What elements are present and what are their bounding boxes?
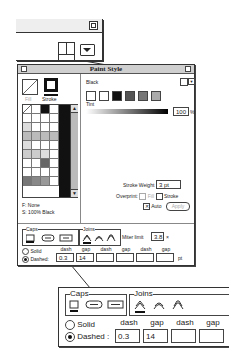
stroke-swatch[interactable] — [44, 78, 58, 92]
solid-label: Solid — [77, 320, 95, 329]
dash-field-1[interactable]: 0.3 — [56, 253, 74, 262]
menu-arrow-icon[interactable]: ▼ — [188, 78, 195, 85]
bevel-join-icon[interactable] — [107, 235, 115, 241]
color-name: Black — [86, 79, 98, 85]
tint-field[interactable]: 100 — [173, 107, 189, 116]
gradient-mode-icon[interactable] — [151, 91, 161, 101]
dashed-option[interactable]: Dashed : — [65, 332, 109, 342]
caps-group-zoomed: Caps — [65, 294, 127, 316]
zoom-box-icon[interactable] — [89, 21, 98, 30]
solid-label: Solid — [30, 248, 41, 254]
process-mode-icon[interactable] — [112, 91, 122, 101]
caps-label: Caps — [70, 289, 89, 298]
caps-group: Caps — [22, 229, 79, 246]
gap-header: gap — [156, 246, 176, 252]
dash-unit: pt — [178, 255, 182, 261]
bevel-join-icon[interactable] — [173, 301, 183, 309]
custom-mode-icon[interactable] — [125, 91, 135, 101]
stroke-label: Stroke — [42, 96, 56, 102]
apply-button[interactable]: Apply — [166, 202, 190, 211]
gap-header: gap — [76, 246, 96, 252]
close-box-icon[interactable] — [21, 66, 27, 72]
projecting-cap-icon[interactable] — [60, 235, 72, 241]
overprint-stroke-checkbox[interactable] — [156, 193, 163, 200]
triangle-down-icon — [83, 48, 91, 52]
dashed-radio[interactable] — [65, 332, 75, 342]
caps-label: Caps — [26, 226, 38, 232]
butt-cap-icon[interactable] — [26, 235, 34, 242]
scroll-up-icon[interactable]: ▲ — [71, 105, 78, 113]
miter-limit-field[interactable]: 3.8 — [151, 232, 164, 241]
stroke-weight-field[interactable]: 3 pt — [156, 180, 181, 189]
stroke-weight-label: Stroke Weight — [123, 182, 154, 188]
auto-checkbox[interactable]: ✕ — [143, 203, 150, 210]
fill-swatch[interactable] — [22, 79, 38, 95]
black-column — [59, 105, 70, 197]
gap-field-1[interactable]: 14 — [143, 329, 168, 343]
layout-toggle-icon[interactable] — [58, 42, 75, 61]
dashed-radio[interactable] — [22, 256, 29, 263]
dash-header: dash — [115, 318, 143, 327]
paint-style-dialog: Paint Style Fill Stroke ▲ ▼ F: None S: 1… — [17, 64, 195, 266]
gap-field-1[interactable]: 14 — [76, 253, 94, 262]
scroll-down-icon[interactable]: ▼ — [71, 189, 78, 197]
overprint-row: Overprint: Fill Stroke — [116, 193, 178, 200]
section-divider — [18, 223, 194, 224]
joins-group-zoomed: Joins — [129, 294, 229, 316]
none-mode-icon[interactable] — [86, 91, 96, 101]
gap-field-2[interactable] — [199, 329, 224, 343]
dash-field-2[interactable] — [96, 253, 114, 262]
dash-header: dash — [96, 246, 116, 252]
swatch-palette[interactable]: ▲ ▼ — [22, 104, 78, 198]
dash-field-2[interactable] — [171, 329, 196, 343]
solid-option[interactable]: Solid — [22, 248, 42, 255]
miter-join-icon[interactable] — [83, 235, 91, 243]
gap-field-2[interactable] — [116, 253, 134, 262]
dash-headers-zoomed: dash gap dash gap — [115, 318, 227, 327]
gap-header: gap — [199, 318, 227, 327]
gap-field-3[interactable] — [156, 253, 174, 262]
joins-group: Joins — [79, 229, 121, 246]
round-cap-icon[interactable] — [42, 235, 54, 241]
gap-header: gap — [143, 318, 171, 327]
dialog-title: Paint Style — [90, 65, 122, 73]
dash-fields-zoomed: 0.3 14 — [115, 329, 224, 343]
dash-field-1[interactable]: 0.3 — [115, 329, 140, 343]
pattern-mode-icon[interactable] — [138, 91, 148, 101]
title-bar — [16, 19, 102, 33]
layout-toggle-icon[interactable] — [180, 78, 188, 86]
overprint-fill-checkbox[interactable] — [139, 193, 146, 200]
tint-unit: % — [190, 109, 194, 115]
dashed-label: Dashed: — [30, 256, 49, 262]
fill-info: F: None — [22, 202, 40, 208]
solid-option[interactable]: Solid — [65, 320, 95, 330]
dash-field-3[interactable] — [136, 253, 154, 262]
miter-join-icon[interactable] — [135, 301, 145, 312]
zoom-box-icon[interactable] — [185, 66, 191, 72]
pane-divider — [80, 74, 81, 224]
tint-slider[interactable] — [86, 109, 168, 114]
fill-label: Fill — [25, 96, 31, 102]
dash-headers: dash gap dash gap dash gap — [56, 246, 176, 252]
auto-row: ✕ Auto — [143, 203, 161, 210]
dash-header: dash — [56, 246, 76, 252]
white-mode-icon[interactable] — [99, 91, 109, 101]
joins-label: Joins — [83, 226, 95, 232]
solid-radio[interactable] — [65, 320, 75, 330]
projecting-cap-icon[interactable] — [108, 301, 123, 308]
joins-label: Joins — [134, 289, 153, 298]
palette-scrollbar[interactable]: ▲ ▼ — [70, 105, 78, 197]
round-join-icon[interactable] — [154, 303, 164, 309]
zoomed-dash-fragment: Caps Joins Solid Dashed : dash gap dash … — [58, 287, 229, 347]
round-cap-icon[interactable] — [86, 301, 102, 308]
miter-limit-label: Miter limit — [122, 234, 143, 240]
dash-header: dash — [171, 318, 199, 327]
auto-label: Auto — [151, 203, 161, 209]
dashed-option[interactable]: Dashed: — [22, 256, 49, 263]
color-mode-swatches — [86, 87, 164, 105]
solid-radio[interactable] — [22, 248, 29, 255]
round-join-icon[interactable] — [95, 237, 103, 242]
butt-cap-icon[interactable] — [70, 301, 78, 311]
overprint-stroke-label: Stroke — [164, 193, 178, 199]
menu-arrow-button[interactable] — [80, 44, 95, 56]
